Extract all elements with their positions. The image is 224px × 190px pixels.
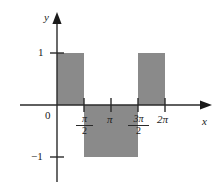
- bar-positive-first: [57, 53, 84, 105]
- x-tick-label-pi-over-2: π 2: [76, 114, 93, 136]
- origin-label: 0: [45, 110, 51, 121]
- square-wave-figure: y x 0 1 −1 π 2 π 3π 2 2π: [0, 0, 224, 190]
- x-tick-label-pi-over-2-numerator: π: [76, 114, 93, 124]
- x-tick-label-2pi: 2π: [157, 114, 168, 125]
- x-axis-label: x: [202, 116, 207, 127]
- x-axis-arrowhead: [200, 101, 212, 110]
- y-axis-arrowhead: [52, 12, 61, 24]
- x-tick-label-pi: π: [107, 114, 113, 125]
- x-tick-label-pi-over-2-denominator: 2: [76, 126, 93, 136]
- x-tick-label-3pi-over-2-numerator: 3π: [128, 114, 149, 124]
- y-tick-label-1: 1: [38, 47, 44, 58]
- y-axis-label: y: [44, 12, 49, 23]
- x-tick-label-3pi-over-2-denominator: 2: [128, 126, 149, 136]
- y-tick-label-neg1: −1: [31, 151, 43, 162]
- x-tick-label-3pi-over-2: 3π 2: [128, 114, 149, 136]
- bar-positive-last: [138, 53, 165, 105]
